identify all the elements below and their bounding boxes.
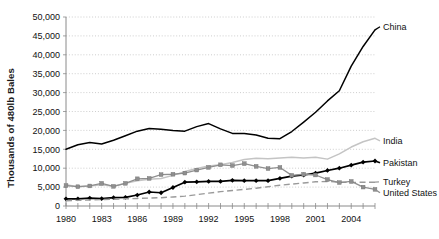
data-point-marker [337, 181, 341, 185]
x-tick-label: 1980 [56, 214, 76, 224]
data-point-marker [135, 193, 140, 198]
series-label-india: India [383, 136, 403, 146]
data-point-marker [112, 184, 116, 188]
series-label-united-states: United States [383, 188, 438, 198]
data-point-marker [195, 168, 199, 172]
cotton-production-line-chart: 05,00010,00015,00020,00025,00030,00035,0… [0, 0, 439, 239]
chart-plot-svg: 05,00010,00015,00020,00025,00030,00035,0… [0, 0, 439, 239]
data-point-marker [242, 162, 246, 166]
series-end-labels: ChinaIndiaPakistanTurkeyUnited States [383, 22, 438, 198]
y-tick-label: 40,000 [32, 50, 60, 60]
data-point-marker [337, 166, 342, 171]
x-axis-tick-labels: 198019831986198919921995199820012004 [56, 214, 361, 224]
y-tick-label: 0 [55, 201, 60, 211]
grid-lines [66, 17, 375, 187]
data-point-marker [124, 181, 128, 185]
data-point-marker [64, 184, 68, 188]
x-tick-label: 1989 [163, 214, 183, 224]
x-tick-label: 1995 [234, 214, 254, 224]
data-point-marker [207, 166, 211, 170]
series-leader-line [375, 138, 380, 140]
data-series [64, 27, 380, 201]
x-tick-label: 2004 [341, 214, 361, 224]
x-tick-label: 2001 [306, 214, 326, 224]
data-point-marker [218, 179, 223, 184]
y-tick-label: 35,000 [32, 69, 60, 79]
data-point-marker [159, 173, 163, 177]
x-tick-label: 1986 [127, 214, 147, 224]
data-point-marker [254, 164, 258, 168]
x-tick-label: 1992 [199, 214, 219, 224]
data-point-marker [254, 178, 259, 183]
x-tick-label: 1983 [92, 214, 112, 224]
data-point-marker [147, 190, 152, 195]
series-label-china: China [383, 22, 407, 32]
data-point-marker [278, 176, 283, 181]
data-point-marker [242, 178, 247, 183]
x-tick-label: 1998 [270, 214, 290, 224]
series-line-china [66, 30, 375, 149]
data-point-marker [314, 173, 318, 177]
data-point-marker [159, 190, 164, 195]
data-point-marker [349, 180, 353, 184]
data-point-marker [147, 177, 151, 181]
data-point-marker [278, 166, 282, 170]
data-point-marker [183, 171, 187, 175]
y-axis-title: Thousands of 480lb Bales [5, 68, 16, 188]
data-point-marker [100, 181, 104, 185]
data-point-marker [135, 177, 139, 181]
y-axis-tick-labels: 05,00010,00015,00020,00025,00030,00035,0… [32, 12, 60, 211]
data-point-marker [349, 163, 354, 168]
data-point-marker [266, 178, 271, 183]
y-tick-label: 10,000 [32, 163, 60, 173]
data-point-marker [76, 185, 80, 189]
data-point-marker [194, 179, 199, 184]
data-point-marker [171, 172, 175, 176]
data-point-marker [361, 185, 365, 189]
data-point-marker [326, 178, 330, 182]
y-tick-label: 20,000 [32, 126, 60, 136]
data-point-marker [325, 168, 330, 173]
data-point-marker [361, 160, 366, 165]
data-point-marker [88, 184, 92, 188]
data-point-marker [290, 173, 294, 177]
y-tick-label: 30,000 [32, 88, 60, 98]
data-point-marker [302, 172, 306, 176]
data-point-marker [266, 167, 270, 171]
data-point-marker [171, 185, 176, 190]
series-label-pakistan: Pakistan [383, 158, 418, 168]
y-tick-label: 5,000 [37, 182, 60, 192]
data-point-marker [230, 178, 235, 183]
data-point-marker [219, 163, 223, 167]
data-point-marker [206, 179, 211, 184]
series-leader-line [375, 27, 380, 30]
y-tick-label: 25,000 [32, 107, 60, 117]
y-tick-label: 45,000 [32, 31, 60, 41]
data-point-marker [230, 164, 234, 168]
y-tick-label: 15,000 [32, 145, 60, 155]
y-tick-label: 50,000 [32, 12, 60, 22]
series-label-turkey: Turkey [383, 177, 411, 187]
